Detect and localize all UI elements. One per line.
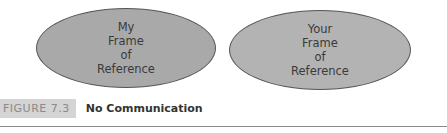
label-line: Reference <box>291 64 349 78</box>
my-frame-of-reference-ellipse: My Frame of Reference <box>36 8 216 88</box>
label-line: Reference <box>97 62 155 76</box>
label-line: My <box>97 20 155 34</box>
ellipse-label: Your Frame of Reference <box>291 22 349 78</box>
figure-caption: FIGURE 7.3 No Communication <box>0 99 203 118</box>
label-line: Frame <box>291 36 349 50</box>
label-line: Your <box>291 22 349 36</box>
figure-number-tag: FIGURE 7.3 <box>0 99 76 118</box>
figure-title: No Communication <box>86 102 203 115</box>
label-line: of <box>291 50 349 64</box>
ellipse-label: My Frame of Reference <box>97 20 155 76</box>
divider-rule <box>0 126 447 127</box>
label-line: Frame <box>97 34 155 48</box>
your-frame-of-reference-ellipse: Your Frame of Reference <box>229 10 411 90</box>
label-line: of <box>97 48 155 62</box>
